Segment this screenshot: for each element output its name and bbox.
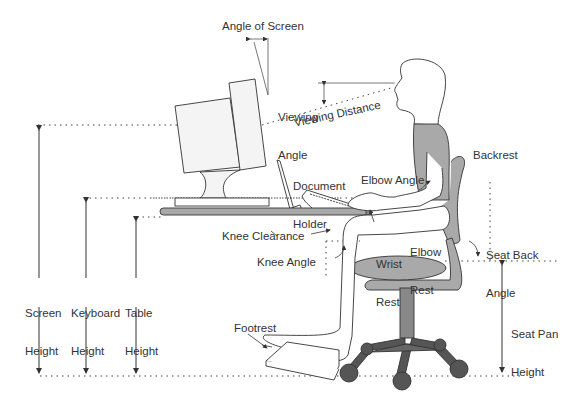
label-line: Height [25, 345, 61, 358]
label-seat-pan-height: Seat Pan Height [511, 303, 558, 391]
label-line: Seat Back [486, 249, 538, 262]
label-line: Height [71, 345, 120, 358]
label-line: Table [125, 307, 158, 320]
label-screen-height: Screen Height [25, 282, 61, 370]
label-line: Wrist [376, 258, 402, 271]
label-line: Seat Pan [511, 328, 558, 341]
label-wrist-rest: Wrist Rest [376, 233, 402, 321]
label-keyboard-height: Keyboard Height [71, 282, 120, 370]
label-line: Angle [486, 287, 538, 300]
label-angle-of-screen: Angle of Screen [222, 20, 304, 33]
label-backrest: Backrest [473, 149, 518, 162]
monitor [175, 79, 269, 206]
label-line: Rest [410, 284, 441, 297]
label-line: Document [293, 180, 345, 193]
label-footrest: Footrest [234, 322, 276, 335]
label-table-height: Table Height [125, 282, 158, 370]
label-knee-angle: Knee Angle [257, 256, 316, 269]
label-line: Height [511, 366, 558, 379]
label-knee-clearance: Knee Clearance [222, 230, 304, 243]
label-seat-back-angle: Seat Back Angle [486, 224, 538, 312]
label-line: Height [125, 345, 158, 358]
label-line: Elbow [410, 246, 441, 259]
label-elbow-rest: Elbow Rest [410, 221, 441, 309]
label-elbow-angle: Elbow Angle [361, 174, 424, 187]
label-line: Keyboard [71, 307, 120, 320]
viewing-angle-indicator [318, 83, 398, 104]
label-line: Rest [376, 296, 402, 309]
label-line: Screen [25, 307, 61, 320]
label-line: Holder [293, 218, 345, 231]
